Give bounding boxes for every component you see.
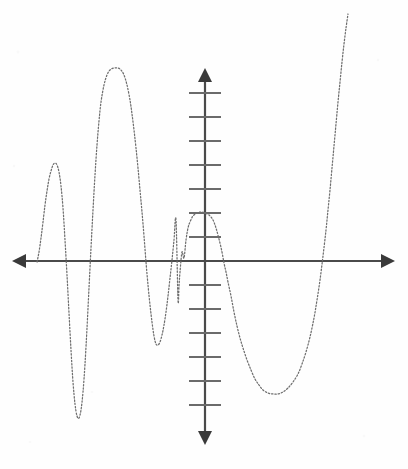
y-axis: [198, 68, 212, 445]
y-axis-up-arrow-icon: [198, 68, 212, 82]
x-axis-right-arrow-icon: [381, 254, 395, 268]
x-axis-left-arrow-icon: [12, 254, 26, 268]
coordinate-plane: [0, 0, 408, 469]
x-axis: [12, 254, 395, 268]
y-axis-down-arrow-icon: [198, 431, 212, 445]
graph-figure: [0, 0, 408, 469]
